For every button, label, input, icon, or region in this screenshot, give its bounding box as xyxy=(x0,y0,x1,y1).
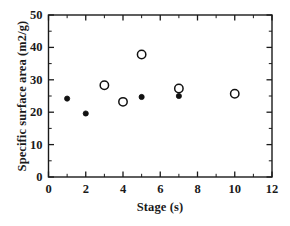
x-tick-label: 4 xyxy=(111,182,135,196)
data-point-open xyxy=(119,98,127,106)
data-point-open xyxy=(231,90,239,98)
x-tick-label: 6 xyxy=(148,182,172,196)
x-tick-label: 2 xyxy=(74,182,98,196)
data-point-filled xyxy=(176,93,181,98)
x-tick-label: 10 xyxy=(223,182,247,196)
x-tick-label: 0 xyxy=(37,182,61,196)
x-tick-label: 8 xyxy=(186,182,210,196)
data-markers xyxy=(65,50,239,116)
data-point-open xyxy=(100,81,108,89)
data-point-open xyxy=(137,50,145,58)
data-point-filled xyxy=(65,96,70,101)
y-tick-label: 20 xyxy=(17,105,43,119)
data-point-filled xyxy=(83,111,88,116)
y-axis-title: Specific surface area (m2/g) xyxy=(14,15,30,177)
x-axis-title: Stage (s) xyxy=(48,200,272,215)
data-point-filled xyxy=(139,94,144,99)
y-tick-label: 30 xyxy=(17,73,43,87)
x-tick-label: 12 xyxy=(260,182,284,196)
chart-figure: Specific surface area (m2/g) Stage (s) 0… xyxy=(0,0,290,226)
data-point-open xyxy=(175,84,183,92)
y-tick-label: 50 xyxy=(17,8,43,22)
y-tick-label: 40 xyxy=(17,40,43,54)
y-tick-label: 10 xyxy=(17,138,43,152)
